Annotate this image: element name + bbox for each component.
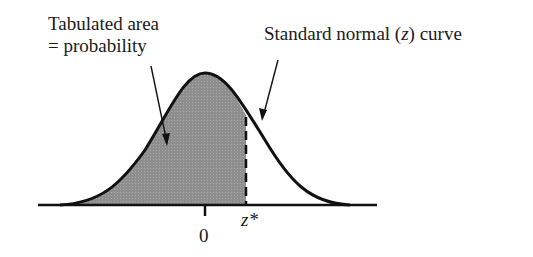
curve-label-var: z [401,23,408,44]
curve-label-prefix: Standard normal ( [264,23,401,44]
curve-label: Standard normal (z) curve [264,23,462,45]
curve-arrowhead [259,108,267,121]
z-star-label: z* [241,209,258,231]
curve-label-suffix: ) curve [409,23,462,44]
area-label-line1: Tabulated area [48,13,159,35]
area-label-line2: = probability [48,35,147,57]
curve-pointer-arrow [263,60,278,117]
zero-tick-label: 0 [199,225,209,247]
